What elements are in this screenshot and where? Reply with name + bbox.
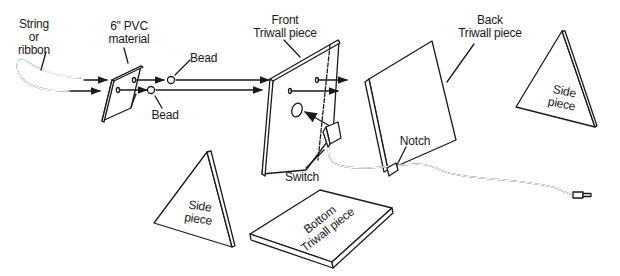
label-string-ribbon: String or ribbon bbox=[14, 18, 54, 57]
label-bead-top: Bead bbox=[190, 52, 220, 65]
back-triwall-piece bbox=[365, 41, 474, 172]
label-side-piece-left: Side piece bbox=[179, 198, 218, 229]
plug bbox=[573, 192, 591, 198]
label-switch: Switch bbox=[280, 171, 324, 184]
bead-bottom bbox=[148, 87, 155, 94]
label-back-triwall: Back Triwall piece bbox=[450, 14, 530, 40]
assembly-diagram: String or ribbon 6" PVC material Bead Be… bbox=[0, 0, 620, 276]
pvc-piece bbox=[102, 48, 143, 122]
label-pvc-material: 6" PVC material bbox=[106, 20, 152, 46]
label-front-triwall: Front Triwall piece bbox=[245, 14, 325, 40]
side-piece-right bbox=[516, 31, 597, 127]
label-notch: Notch bbox=[395, 135, 435, 148]
bead-top bbox=[168, 77, 175, 84]
string-ribbon bbox=[17, 52, 80, 91]
label-bead-bottom: Bead bbox=[150, 109, 180, 122]
